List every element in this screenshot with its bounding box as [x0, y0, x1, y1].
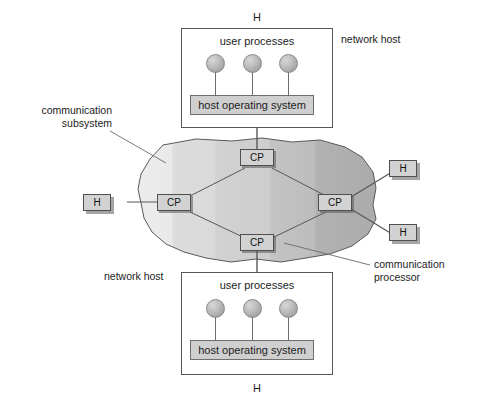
bottom-process-stem-1	[215, 317, 216, 341]
top-host-operating-system-box: host operating system	[190, 95, 314, 115]
bottom-host-operating-system-label: host operating system	[198, 344, 306, 356]
cp-node-top: CP	[240, 149, 274, 166]
top-process-stem-1	[215, 72, 216, 96]
bottom-user-processes-label: user processes	[197, 279, 317, 293]
top-user-processes-label: user processes	[197, 35, 317, 49]
top-process-sphere-3	[279, 54, 298, 73]
host-node-right-lower: H	[389, 224, 417, 241]
cp-node-top-label: CP	[250, 152, 264, 163]
annotation-communication-processor-line2: processor	[374, 271, 492, 284]
cp-node-bottom: CP	[240, 234, 274, 251]
annotation-communication-subsystem-line2: subsystem	[10, 117, 112, 130]
host-node-left-label: H	[93, 197, 100, 208]
bottom-host-letter: H	[237, 382, 277, 396]
top-process-stem-3	[288, 72, 289, 96]
bottom-process-sphere-2	[243, 299, 262, 318]
top-host-letter: H	[237, 11, 277, 25]
bottom-process-sphere-3	[279, 299, 298, 318]
host-node-right-upper: H	[389, 160, 417, 177]
annotation-communication-processor: communication processor	[374, 258, 492, 284]
host-node-right-lower-label: H	[399, 227, 406, 238]
cp-node-left: CP	[157, 194, 191, 211]
annotation-communication-subsystem: communication subsystem	[10, 104, 112, 130]
top-process-sphere-2	[243, 54, 262, 73]
top-process-stem-2	[252, 72, 253, 96]
bottom-host-operating-system-box: host operating system	[190, 340, 314, 360]
annotation-communication-subsystem-line1: communication	[10, 104, 112, 117]
top-process-sphere-1	[206, 54, 225, 73]
host-node-right-upper-label: H	[399, 163, 406, 174]
bottom-process-stem-3	[288, 317, 289, 341]
cp-node-right-label: CP	[328, 197, 342, 208]
bottom-process-sphere-1	[206, 299, 225, 318]
annotation-communication-processor-line1: communication	[374, 258, 492, 271]
cp-node-left-label: CP	[167, 197, 181, 208]
top-host-operating-system-label: host operating system	[198, 99, 306, 111]
bottom-network-host-label: network host	[104, 270, 164, 283]
bottom-process-stem-2	[252, 317, 253, 341]
host-node-left: H	[83, 194, 111, 211]
diagram-canvas: H network host user processes host opera…	[0, 0, 497, 407]
cp-node-right: CP	[318, 194, 352, 211]
cp-node-bottom-label: CP	[250, 237, 264, 248]
top-network-host-label: network host	[341, 33, 401, 46]
leader-line-communication-subsystem	[110, 131, 166, 163]
